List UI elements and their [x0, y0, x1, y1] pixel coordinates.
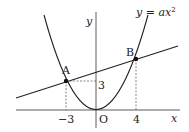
curve-equation-label: y = ax2 — [135, 6, 176, 19]
tick-label-y-3: 3 — [98, 79, 105, 92]
point-b-label: B — [126, 46, 134, 59]
tick-label-x-neg3: −3 — [58, 113, 74, 126]
point-b — [134, 57, 138, 61]
coordinate-diagram: A B y x O −3 4 3 y = ax2 — [0, 0, 189, 132]
origin-label: O — [99, 113, 108, 126]
y-axis-label: y — [85, 15, 93, 28]
point-a-label: A — [61, 64, 71, 77]
line-ab — [16, 46, 178, 98]
tick-label-x-4: 4 — [133, 113, 140, 126]
point-a — [64, 79, 68, 83]
x-axis-label: x — [171, 112, 178, 125]
